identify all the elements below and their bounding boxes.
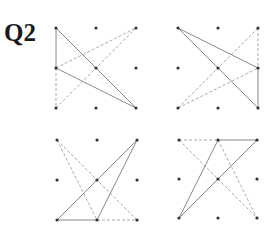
grid-dot (54, 26, 57, 29)
dashed-line (218, 140, 257, 218)
figure-top-right (176, 26, 259, 109)
grid-dot (177, 177, 180, 180)
figure-top-left (54, 26, 137, 109)
grid-dot (216, 216, 219, 219)
grid-dot (95, 218, 98, 221)
solid-line (179, 140, 218, 218)
grid-dot (54, 106, 57, 109)
dot-grid-figures (0, 0, 270, 231)
grid-dot (134, 66, 137, 69)
dashed-line (178, 68, 258, 108)
figure-bottom-right (177, 138, 258, 219)
grid-dot (256, 66, 259, 69)
grid-dot (216, 138, 219, 141)
solid-line (56, 68, 136, 108)
grid-dot (255, 177, 258, 180)
grid-dot (216, 177, 219, 180)
grid-dot (95, 178, 98, 181)
dashed-line (57, 140, 97, 220)
dashed-line (56, 28, 136, 68)
grid-dot (134, 106, 137, 109)
figure-bottom-left (55, 138, 138, 221)
grid-dot (176, 26, 179, 29)
grid-dot (95, 138, 98, 141)
grid-dot (55, 138, 58, 141)
grid-dot (256, 26, 259, 29)
grid-dot (55, 218, 58, 221)
grid-dot (176, 66, 179, 69)
grid-dot (94, 66, 97, 69)
grid-dot (216, 66, 219, 69)
grid-dot (94, 26, 97, 29)
solid-line (178, 28, 258, 68)
grid-dot (216, 26, 219, 29)
grid-dot (177, 216, 180, 219)
solid-line (97, 140, 137, 220)
grid-dot (135, 218, 138, 221)
grid-dot (134, 26, 137, 29)
grid-dot (256, 106, 259, 109)
grid-dot (216, 106, 219, 109)
grid-dot (135, 178, 138, 181)
grid-dot (176, 106, 179, 109)
grid-dot (54, 66, 57, 69)
grid-dot (177, 138, 180, 141)
grid-dot (94, 106, 97, 109)
grid-dot (255, 216, 258, 219)
grid-dot (255, 138, 258, 141)
grid-dot (135, 138, 138, 141)
grid-dot (55, 178, 58, 181)
